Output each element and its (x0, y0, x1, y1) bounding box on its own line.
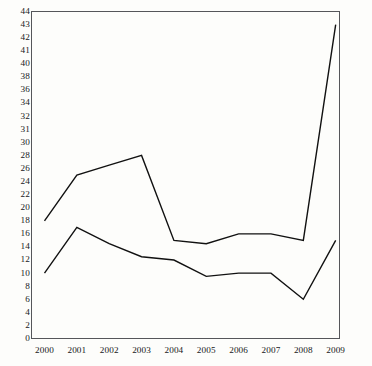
x-tick-label: 2000 (28, 346, 62, 355)
x-tick-label: 2008 (286, 346, 320, 355)
line-chart: 0246810121416182022242628303132343638404… (0, 0, 372, 366)
x-axis: 2000200120022003200420052006200720082009 (0, 0, 372, 366)
x-tick-label: 2001 (60, 346, 94, 355)
x-tick-label: 2004 (157, 346, 191, 355)
x-tick-label: 2002 (92, 346, 126, 355)
x-tick-label: 2005 (189, 346, 223, 355)
x-tick-label: 2006 (222, 346, 256, 355)
x-tick-label: 2003 (125, 346, 159, 355)
x-tick-label: 2009 (319, 346, 353, 355)
x-tick-label: 2007 (254, 346, 288, 355)
